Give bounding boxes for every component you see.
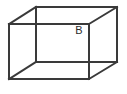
bottom-right-depth-edge: [89, 62, 117, 79]
cube-edge-group: [9, 7, 117, 79]
vertex-label-b: B: [75, 24, 82, 36]
bottom-left-depth-edge: [9, 62, 36, 79]
top-left-depth-edge: [9, 7, 36, 24]
top-right-depth-edge: [89, 7, 117, 24]
cube-wireframe-svg: B: [0, 0, 127, 94]
cube-label-group: B: [75, 24, 82, 36]
cube-diagram-figure: B: [0, 0, 127, 94]
